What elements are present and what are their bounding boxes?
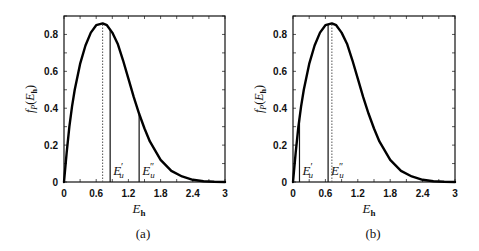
y-tick-label: 0.8: [44, 29, 58, 40]
panel-a: 00.61.21.82.4300.20.40.60.8E′uE″uEhfP(Eh…: [23, 16, 228, 241]
y-tick-label: 0.4: [44, 103, 58, 114]
panel-caption: (a): [136, 226, 150, 241]
x-tick-label: 1.8: [383, 188, 397, 199]
y-tick-label: 0.2: [44, 140, 58, 151]
E-u-prime-label: E′u: [301, 161, 313, 180]
pdf-curve: [293, 23, 455, 182]
panel-b: 00.61.21.82.4300.20.40.60.8E′uE″uEhfP(Eh…: [252, 16, 458, 241]
E-u-prime-label: E′u: [112, 161, 124, 180]
figure: 00.61.21.82.4300.20.40.60.8E′uE″uEhfP(Eh…: [0, 0, 479, 251]
y-tick-label: 0.6: [44, 66, 58, 77]
y-axis-label: fP(Eh): [23, 85, 39, 113]
x-tick-label: 1.2: [351, 188, 365, 199]
E-u-double-prime-label: E″u: [141, 161, 155, 180]
x-tick-label: 0.6: [89, 188, 103, 199]
y-tick-label: 0: [52, 177, 58, 188]
y-tick-label: 0: [281, 177, 287, 188]
x-tick-label: 2.4: [416, 188, 430, 199]
y-axis-label: fP(Eh): [252, 85, 268, 113]
x-tick-label: 2.4: [186, 188, 200, 199]
y-tick-label: 0.4: [273, 103, 287, 114]
x-tick-label: 3: [222, 188, 228, 199]
pdf-curve: [64, 23, 225, 182]
x-tick-label: 0: [61, 188, 67, 199]
x-tick-label: 1.2: [121, 188, 135, 199]
y-tick-label: 0.8: [273, 29, 287, 40]
x-tick-label: 0: [290, 188, 296, 199]
x-tick-label: 0.6: [318, 188, 332, 199]
y-tick-label: 0.6: [273, 66, 287, 77]
x-axis-label: Eh: [132, 201, 146, 218]
x-tick-label: 1.8: [154, 188, 168, 199]
y-tick-label: 0.2: [273, 140, 287, 151]
x-tick-label: 3: [452, 188, 458, 199]
x-axis-label: Eh: [362, 201, 376, 218]
panel-caption: (b): [365, 226, 380, 241]
